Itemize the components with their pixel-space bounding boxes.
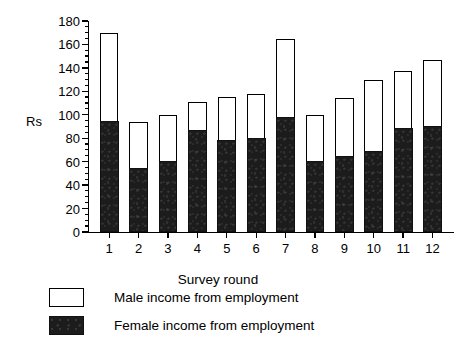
bar-segment-female	[217, 140, 236, 233]
x-tick-label: 10	[367, 242, 381, 255]
y-tick-minor	[85, 61, 88, 62]
x-tick-label: 3	[164, 242, 171, 255]
y-tick-minor	[85, 32, 88, 33]
x-tick-label: 7	[282, 242, 289, 255]
y-tick-minor	[85, 85, 88, 86]
x-tick-label: 6	[253, 242, 260, 255]
bar-segment-female	[188, 130, 207, 232]
bar-segment-female	[159, 161, 178, 233]
y-tick-label: 20	[66, 202, 80, 215]
y-tick-minor	[85, 220, 88, 221]
y-tick-label: 120	[58, 85, 80, 98]
y-tick-label: 80	[66, 132, 80, 145]
bar-stack	[364, 80, 383, 232]
bar-stack	[276, 39, 295, 232]
y-tick-minor	[85, 143, 88, 144]
bar-segment-female	[394, 128, 413, 232]
x-tick	[197, 232, 198, 238]
y-tick-minor	[85, 96, 88, 97]
bar-stack	[423, 60, 442, 232]
bar-stack	[129, 122, 148, 232]
y-tick-major	[82, 184, 88, 185]
y-tick-minor	[85, 50, 88, 51]
y-tick-minor	[85, 202, 88, 203]
bar-segment-female	[364, 151, 383, 232]
y-tick-minor	[85, 167, 88, 168]
y-tick-minor	[85, 179, 88, 180]
bar-stack	[306, 115, 325, 232]
y-tick-minor	[85, 73, 88, 74]
x-tick-label: 4	[194, 242, 201, 255]
bar-stack	[335, 98, 354, 232]
y-tick-label: 0	[73, 226, 80, 239]
x-tick	[109, 232, 110, 238]
bar-stack	[218, 97, 237, 232]
y-tick-major	[82, 231, 88, 232]
bar-segment-female	[306, 161, 325, 233]
bar-segment-female	[247, 138, 266, 232]
y-tick-minor	[85, 102, 88, 103]
x-tick-label: 12	[425, 242, 439, 255]
y-tick-label: 100	[58, 108, 80, 121]
y-tick-minor	[85, 190, 88, 191]
bar-segment-female	[100, 121, 119, 232]
bar-stack	[100, 33, 119, 232]
y-tick-label: 140	[58, 61, 80, 74]
y-tick-minor	[85, 149, 88, 150]
bar-stack	[188, 102, 207, 232]
x-tick	[373, 232, 374, 238]
y-axis-line	[88, 21, 89, 232]
y-tick-major	[82, 161, 88, 162]
y-tick-label: 160	[58, 38, 80, 51]
legend-label: Female income from employment	[114, 318, 314, 333]
x-axis-line	[88, 232, 454, 233]
x-tick	[344, 232, 345, 238]
y-tick-label: 40	[66, 179, 80, 192]
plot-area: 020406080100120140160180 123456789101112	[88, 21, 454, 232]
y-tick-minor	[85, 38, 88, 39]
chart-legend: Male income from employmentFemale income…	[49, 283, 429, 339]
bar-stack	[247, 94, 266, 232]
y-tick-minor	[85, 120, 88, 121]
y-tick-minor	[85, 126, 88, 127]
x-tick	[432, 232, 433, 238]
x-tick	[167, 232, 168, 238]
y-tick-minor	[85, 225, 88, 226]
x-tick-label: 9	[341, 242, 348, 255]
bar-segment-female	[276, 117, 295, 232]
y-tick-minor	[85, 108, 88, 109]
y-tick-label: 180	[58, 15, 80, 28]
y-tick-major	[82, 20, 88, 21]
x-tick-label: 5	[223, 242, 230, 255]
y-tick-major	[82, 67, 88, 68]
y-tick-minor	[85, 55, 88, 56]
x-tick	[402, 232, 403, 238]
y-tick-minor	[85, 173, 88, 174]
x-tick	[314, 232, 315, 238]
y-tick-minor	[85, 214, 88, 215]
y-tick-major	[82, 138, 88, 139]
x-tick	[138, 232, 139, 238]
legend-swatch-female	[49, 316, 84, 335]
bar-segment-female	[423, 126, 442, 233]
legend-item: Male income from employment	[49, 283, 429, 311]
legend-item: Female income from employment	[49, 311, 429, 339]
y-tick-minor	[85, 26, 88, 27]
bar-segment-female	[335, 156, 354, 232]
x-tick	[226, 232, 227, 238]
y-axis-title: Rs	[26, 114, 42, 129]
legend-label: Male income from employment	[114, 290, 299, 305]
x-tick-label: 1	[106, 242, 113, 255]
y-tick-label: 60	[66, 155, 80, 168]
y-tick-minor	[85, 155, 88, 156]
y-tick-major	[82, 44, 88, 45]
bar-stack	[394, 71, 413, 232]
stacked-bar-chart: Rs 020406080100120140160180 123456789101…	[0, 0, 472, 342]
y-tick-minor	[85, 79, 88, 80]
legend-swatch-male	[49, 288, 84, 307]
x-tick-label: 11	[396, 242, 410, 255]
x-tick-label: 2	[135, 242, 142, 255]
y-tick-minor	[85, 132, 88, 133]
y-tick-minor	[85, 196, 88, 197]
x-tick-label: 8	[311, 242, 318, 255]
